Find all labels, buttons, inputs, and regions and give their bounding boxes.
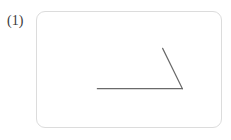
page-root: (1) (0, 0, 231, 140)
angle-shape (97, 48, 182, 88)
diagonal-ray (163, 48, 183, 88)
item-number-label: (1) (7, 11, 33, 31)
figure-card (36, 11, 222, 128)
angle-figure-canvas (37, 12, 221, 127)
